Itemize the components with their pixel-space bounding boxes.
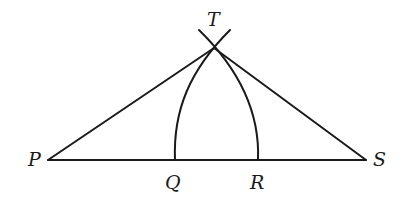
geometry-diagram: T P Q R S (0, 0, 410, 198)
arc-from-q (175, 30, 230, 160)
segment-pt (48, 48, 214, 160)
label-q: Q (165, 171, 181, 193)
arc-from-r (199, 30, 258, 160)
segment-st (214, 48, 366, 160)
label-t: T (207, 8, 221, 30)
label-p: P (27, 148, 42, 170)
label-s: S (373, 148, 386, 170)
label-r: R (249, 171, 264, 193)
